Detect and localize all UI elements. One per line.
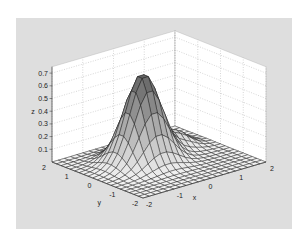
x-tick-label: -1 (177, 192, 183, 199)
z-tick-label: 0.7 (38, 70, 48, 77)
z-tick-label: 0.4 (38, 108, 48, 115)
z-tick-label: 0.6 (38, 82, 48, 89)
y-axis-label: y (97, 199, 101, 207)
x-tick-label: 2 (270, 165, 274, 172)
y-tick-label: -2 (132, 200, 138, 207)
z-tick-label: 0.2 (38, 133, 48, 140)
x-tick-label: -2 (146, 201, 152, 208)
y-tick-label: -1 (109, 191, 115, 198)
y-tick-label: 2 (42, 164, 46, 171)
y-tick-label: 1 (65, 173, 69, 180)
figure-panel: 0.10.20.30.40.50.60.7-2-1012-2-1012zyx (16, 18, 292, 229)
z-tick-label: 0.5 (38, 95, 48, 102)
x-tick-label: 0 (209, 183, 213, 190)
surface-plot: 0.10.20.30.40.50.60.7-2-1012-2-1012zyx (16, 18, 292, 229)
z-axis-label: z (31, 108, 35, 115)
x-axis-label: x (193, 194, 197, 201)
z-tick-label: 0.3 (38, 120, 48, 127)
z-tick-label: 0.1 (38, 146, 48, 153)
x-tick-label: 1 (239, 174, 243, 181)
y-tick-label: 0 (88, 182, 92, 189)
